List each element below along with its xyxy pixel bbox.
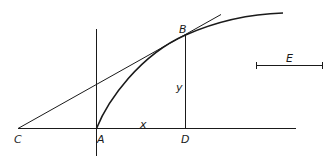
label-b: B [179,23,187,36]
label-x: x [139,118,147,131]
label-y: y [175,81,183,94]
label-c: C [14,133,22,146]
label-a: A [96,133,105,146]
curve-ab [97,13,284,129]
label-d: D [181,133,189,146]
diagram-canvas: C A D B x y E [0,0,333,157]
label-e: E [286,52,293,65]
tangent-line [18,15,221,129]
